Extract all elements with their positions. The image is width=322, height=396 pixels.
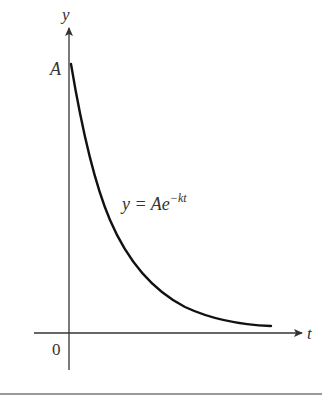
- curve-equation: y = Ae−kt: [120, 191, 187, 214]
- x-axis-label: t: [307, 324, 313, 343]
- y-intercept-label: A: [49, 59, 62, 79]
- y-axis-label: y: [60, 5, 70, 24]
- origin-label: 0: [52, 340, 61, 359]
- equation-exponent: −kt: [170, 191, 187, 205]
- exponential-decay-chart: y t A 0 y = Ae−kt: [0, 0, 322, 396]
- equation-base: y = Ae: [120, 194, 170, 214]
